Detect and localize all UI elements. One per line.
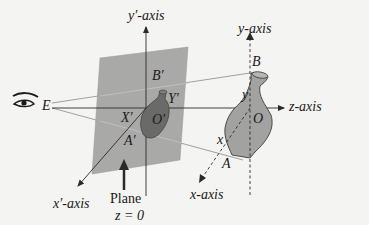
point-a-prime-label: A′: [124, 134, 136, 148]
projection-plane: [92, 47, 188, 174]
y-prime-axis-label: y′-axis: [128, 9, 165, 23]
x-prime-axis-label: x′-axis: [53, 197, 90, 211]
point-x-label: x: [217, 133, 223, 147]
vase-object: [225, 73, 272, 158]
point-o-prime-label: O′: [152, 113, 165, 127]
x-axis-label: x-axis: [190, 188, 223, 202]
point-a-label: A: [222, 157, 231, 171]
plane-label-line2: z = 0: [115, 209, 144, 223]
point-y-label: y: [242, 88, 248, 102]
z-axis-label: z-axis: [289, 100, 322, 114]
point-x-prime-label: X′: [121, 111, 133, 125]
plane-label-line1: Plane: [110, 192, 141, 206]
point-y-prime-label: Y′: [168, 92, 179, 106]
point-b-prime-label: B′: [152, 69, 164, 83]
eye-icon: [13, 93, 38, 107]
perspective-diagram: y′-axis y-axis z-axis x′-axis x-axis E B…: [0, 0, 369, 225]
origin-o-label: O: [253, 112, 263, 126]
eye-point-label: E: [42, 99, 51, 113]
point-b-label: B: [252, 55, 261, 69]
y-axis-label: y-axis: [238, 22, 271, 36]
